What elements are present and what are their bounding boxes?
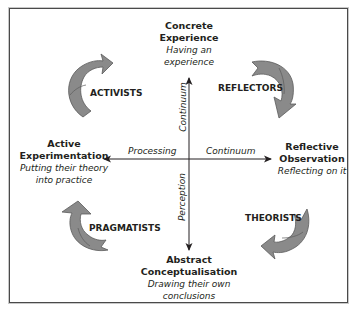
pole-reflective-observation: Reflective Observation Reflecting on it <box>272 141 352 177</box>
pole-title-line: Reflective <box>272 141 352 153</box>
pole-subtitle-line: Reflecting on it <box>272 165 352 177</box>
pole-title-line: Conceptualisation <box>130 266 248 278</box>
pole-title-line: Active <box>12 138 116 150</box>
axis-label-continuum-vertical: Continuum <box>178 82 188 132</box>
pole-subtitle-line: into practice <box>12 174 116 186</box>
pole-title-line: Abstract <box>130 254 248 266</box>
pole-active-experimentation: Active Experimentation Putting their the… <box>12 138 116 186</box>
pole-concrete-experience: Concrete Experience Having an experience <box>139 20 239 68</box>
style-label-activists: ACTIVISTS <box>90 88 142 98</box>
axis-label-processing: Processing <box>128 146 176 156</box>
style-label-pragmatists: PRAGMATISTS <box>89 223 161 233</box>
pole-title-line: Experimentation <box>12 150 116 162</box>
pole-title-line: Observation <box>272 153 352 165</box>
axis-label-perception: Perception <box>177 171 187 223</box>
pole-subtitle-line: experience <box>139 56 239 68</box>
style-label-reflectors: REFLECTORS <box>218 83 283 93</box>
activists-cycle-arrow-icon <box>69 54 113 117</box>
style-label-theorists: THEORISTS <box>245 213 302 223</box>
axis-label-continuum-horizontal: Continuum <box>206 146 255 156</box>
pole-subtitle-line: Putting their theory <box>12 162 116 174</box>
pole-subtitle-line: Drawing their own <box>130 278 248 290</box>
pole-subtitle-line: Having an <box>139 44 239 56</box>
pole-title-line: Concrete <box>139 20 239 32</box>
pole-abstract-conceptualisation: Abstract Conceptualisation Drawing their… <box>130 254 248 302</box>
pole-subtitle-line: conclusions <box>130 290 248 302</box>
pole-title-line: Experience <box>139 32 239 44</box>
